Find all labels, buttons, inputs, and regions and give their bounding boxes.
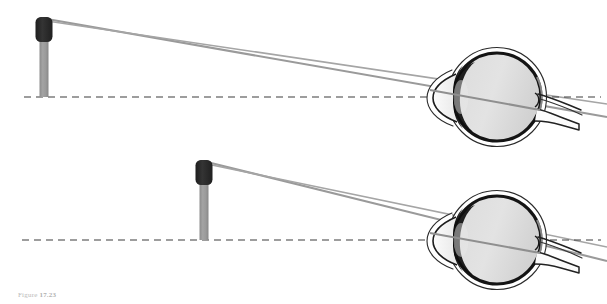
far-object-panel <box>24 17 607 147</box>
pole-object <box>196 160 213 240</box>
figure-caption-label: Figure <box>18 291 37 299</box>
chief-ray-lower <box>207 164 607 247</box>
eye-diagram <box>427 191 582 290</box>
pole-object <box>36 17 53 97</box>
figure-caption-number: 17.23 <box>39 291 56 299</box>
near-object-panel <box>22 160 607 290</box>
ray-bundle-near <box>207 162 607 261</box>
figure-container: Figure 17.23 <box>0 0 607 304</box>
figure-caption: Figure 17.23 <box>18 291 56 300</box>
eye-visual-angle-diagram <box>0 0 607 304</box>
